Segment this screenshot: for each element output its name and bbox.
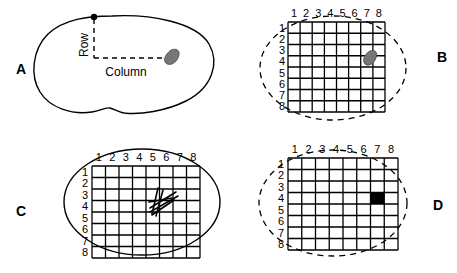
row-number-labels: 1 2 3 4 5 6 7 8 (278, 158, 284, 251)
row-label: 6 (82, 223, 88, 235)
panel-b: B (230, 0, 457, 136)
column-label: 5 (150, 151, 156, 163)
coordinate-grid (288, 22, 385, 112)
column-label: 3 (319, 143, 325, 155)
column-number-labels: 1 2 3 4 5 6 7 8 (96, 151, 197, 163)
row-number-labels: 1 2 3 4 5 6 7 8 (82, 166, 88, 258)
row-label: 4 (279, 55, 285, 67)
row-label: 7 (278, 227, 284, 239)
row-label: 2 (82, 177, 88, 189)
coordinate-grid (92, 166, 200, 258)
row-label: 8 (278, 238, 284, 250)
row-number-labels: 1 2 3 4 5 6 7 8 (279, 22, 285, 113)
row-label: 8 (82, 246, 88, 258)
row-label: 2 (278, 169, 284, 181)
column-label: 8 (388, 143, 394, 155)
column-label: 5 (347, 143, 353, 155)
column-label: 6 (352, 7, 358, 19)
column-label: 1 (292, 143, 298, 155)
row-label: 4 (278, 192, 284, 204)
panel-a: A Row Column (0, 0, 230, 136)
row-label: 1 (278, 158, 284, 170)
lesion-mark (364, 50, 377, 65)
column-label: 1 (291, 7, 297, 19)
row-label: 1 (279, 22, 285, 34)
column-label: 1 (96, 151, 102, 163)
row-label: 2 (279, 33, 285, 45)
lesion-mark (165, 49, 179, 64)
row-label: 3 (82, 189, 88, 201)
column-label: 2 (303, 7, 309, 19)
row-label: 7 (82, 235, 88, 247)
row-label: 8 (279, 100, 285, 112)
row-label: 6 (278, 215, 284, 227)
row-label: 7 (279, 89, 285, 101)
panel-d-drawing: 1 2 3 4 5 6 7 8 1 2 3 4 5 6 7 8 (248, 136, 457, 273)
panel-c-drawing: 1 2 3 4 5 6 7 8 1 2 3 4 5 6 7 8 (0, 136, 248, 273)
column-label: 6 (163, 151, 169, 163)
column-label: 4 (136, 151, 142, 163)
row-label: 5 (279, 67, 285, 79)
row-axis-label: Row (77, 33, 91, 57)
column-label: 4 (327, 7, 333, 19)
row-label: 5 (82, 212, 88, 224)
column-number-labels: 1 2 3 4 5 6 7 8 (292, 143, 394, 155)
row-label: 3 (279, 44, 285, 56)
column-label: 6 (361, 143, 367, 155)
column-label: 3 (315, 7, 321, 19)
column-number-labels: 1 2 3 4 5 6 7 8 (291, 7, 382, 19)
scored-cell (371, 193, 385, 205)
row-label: 1 (82, 166, 88, 178)
column-label: 5 (339, 7, 345, 19)
column-label: 8 (190, 151, 196, 163)
column-label: 2 (109, 151, 115, 163)
column-label: 3 (123, 151, 129, 163)
column-label: 7 (374, 143, 380, 155)
figure-container: A Row Column B (0, 0, 457, 273)
row-label: 5 (278, 204, 284, 216)
row-label: 3 (278, 181, 284, 193)
column-label: 7 (177, 151, 183, 163)
panel-d: D (248, 136, 457, 273)
column-label: 4 (333, 143, 339, 155)
panel-c: C (0, 136, 248, 273)
column-label: 7 (364, 7, 370, 19)
panel-b-drawing: 1 2 3 4 5 6 7 8 1 2 3 4 5 6 7 8 (230, 0, 457, 136)
column-axis-label: Column (105, 65, 146, 79)
column-label: 8 (376, 7, 382, 19)
panel-a-drawing: Row Column (0, 0, 230, 136)
row-label: 6 (279, 78, 285, 90)
column-label: 2 (306, 143, 312, 155)
row-label: 4 (82, 200, 88, 212)
